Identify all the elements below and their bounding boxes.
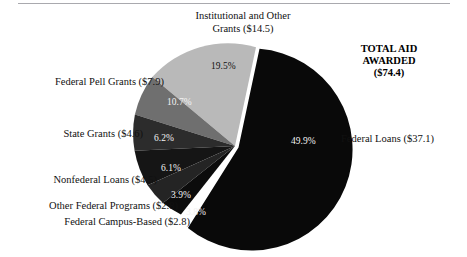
pie-chart-figure: 19.5% 10.7% 6.2% 6.1% 3.9% 3.8% 49.9% In… xyxy=(0,0,467,257)
callout-federal-pell-grants: Federal Pell Grants ($7.9) xyxy=(6,76,164,89)
callout-institutional-line2: Grants ($14.5) xyxy=(153,23,333,36)
percent-label-federal-loans: 49.9% xyxy=(291,136,316,146)
callout-federal-campus-based: Federal Campus-Based ($2.8) xyxy=(18,216,190,229)
percent-label-pell: 10.7% xyxy=(167,97,192,107)
percent-label-nonfederal-loans: 6.1% xyxy=(161,163,181,173)
total-aid-line2: AWARDED xyxy=(331,55,447,68)
callout-institutional-line1: Institutional and Other xyxy=(153,10,333,23)
total-aid-line3: ($74.4) xyxy=(331,67,447,80)
percent-label-state-grants: 6.2% xyxy=(154,133,174,143)
callout-nonfederal-loans: Nonfederal Loans ($4.5) xyxy=(6,174,157,187)
percent-label-other-federal-programs: 3.9% xyxy=(171,190,191,200)
callout-state-grants: State Grants ($4.6) xyxy=(6,128,143,141)
percent-label-institutional: 19.5% xyxy=(211,61,236,71)
callout-other-federal-programs: Other Federal Programs ($2.8) xyxy=(2,200,178,213)
total-aid-line1: TOTAL AID xyxy=(331,43,447,56)
callout-federal-loans: Federal Loans ($37.1) xyxy=(341,133,467,146)
